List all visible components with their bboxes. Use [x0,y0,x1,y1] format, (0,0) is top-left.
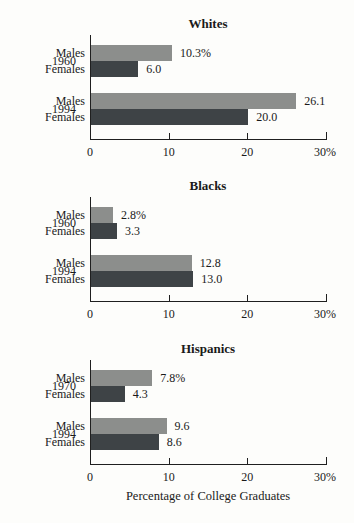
bar-label-males: Males [56,207,85,223]
axis-tick [247,295,248,301]
bar-females [91,434,159,450]
bar-row: Females 20.0 [91,109,327,125]
x-tick-label: 10 [163,307,175,322]
axis-tick [169,458,170,464]
panel-title-blacks: Blacks [90,179,326,193]
bar-value-label: 4.3 [133,386,148,402]
x-axis-tick-labels: 0 10 20 30% [90,145,326,160]
bar-value-label: 12.8 [200,255,221,271]
x-tick-label: 30% [314,470,336,485]
bar-row: Males 7.8% [91,370,327,386]
plot-area: 1960 1994 Males 10.3% Females 6.0 Males … [90,35,327,140]
x-tick-label: 20 [241,145,253,160]
bar-value-label: 13.0 [201,271,222,287]
bar-females [91,386,125,402]
bar-row: Males 9.6 [91,418,327,434]
bar-label-females: Females [45,109,85,125]
bar-label-females: Females [45,61,85,77]
bar-label-males: Males [56,93,85,109]
bar-row: Males 10.3% [91,45,327,61]
bar-value-label: 9.6 [175,418,190,434]
bar-value-label: 2.8% [121,207,146,223]
bar-label-females: Females [45,271,85,287]
bar-label-females: Females [45,386,85,402]
x-tick-label: 20 [241,470,253,485]
x-axis-title: Percentage of College Graduates [90,489,326,504]
bar-value-label: 7.8% [160,370,185,386]
chart-panel-blacks: Blacks 1960 1994 Males 2.8% Females 3.3 … [0,179,354,329]
x-tick-label: 0 [87,145,93,160]
axis-tick [326,294,327,301]
bar-females [91,109,248,125]
bar-row: Females 3.3 [91,223,327,239]
bar-row: Females 4.3 [91,386,327,402]
axis-tick [326,457,327,464]
bar-row: Males 2.8% [91,207,327,223]
bar-row: Males 12.8 [91,255,327,271]
panel-title-whites: Whites [90,17,326,31]
x-tick-label: 0 [87,307,93,322]
bar-value-label: 10.3% [180,45,211,61]
x-tick-label: 10 [163,470,175,485]
panel-title-hispanics: Hispanics [90,342,326,356]
chart-panel-whites: Whites 1960 1994 Males 10.3% Females 6.0… [0,17,354,167]
axis-tick [169,295,170,301]
bar-value-label: 6.0 [146,61,161,77]
bar-females [91,223,117,239]
x-tick-label: 10 [163,145,175,160]
x-axis-tick-labels: 0 10 20 30% [90,470,326,485]
x-tick-label: 0 [87,470,93,485]
bar-label-males: Males [56,370,85,386]
bar-males [91,370,152,386]
bar-value-label: 20.0 [256,109,277,125]
bar-label-males: Males [56,255,85,271]
axis-tick [247,458,248,464]
axis-tick [169,133,170,139]
bar-males [91,207,113,223]
x-tick-label: 30% [314,145,336,160]
bar-row: Males 26.1 [91,93,327,109]
bar-label-males: Males [56,45,85,61]
x-tick-label: 20 [241,307,253,322]
chart-panel-hispanics: Hispanics 1970 1994 Males 7.8% Females 4… [0,342,354,492]
bar-label-females: Females [45,223,85,239]
bar-males [91,45,172,61]
bar-females [91,61,138,77]
bar-females [91,271,193,287]
bar-row: Females 8.6 [91,434,327,450]
bar-males [91,418,167,434]
bar-value-label: 26.1 [304,93,325,109]
x-tick-label: 30% [314,307,336,322]
bar-label-females: Females [45,434,85,450]
bar-value-label: 8.6 [167,434,182,450]
axis-tick [326,132,327,139]
plot-area: 1970 1994 Males 7.8% Females 4.3 Males 9… [90,360,327,465]
bar-label-males: Males [56,418,85,434]
bar-row: Females 13.0 [91,271,327,287]
x-axis-tick-labels: 0 10 20 30% [90,307,326,322]
bar-value-label: 3.3 [125,223,140,239]
axis-tick [247,133,248,139]
bar-males [91,255,192,271]
plot-area: 1960 1994 Males 2.8% Females 3.3 Males 1… [90,197,327,302]
bar-row: Females 6.0 [91,61,327,77]
bar-males [91,93,296,109]
